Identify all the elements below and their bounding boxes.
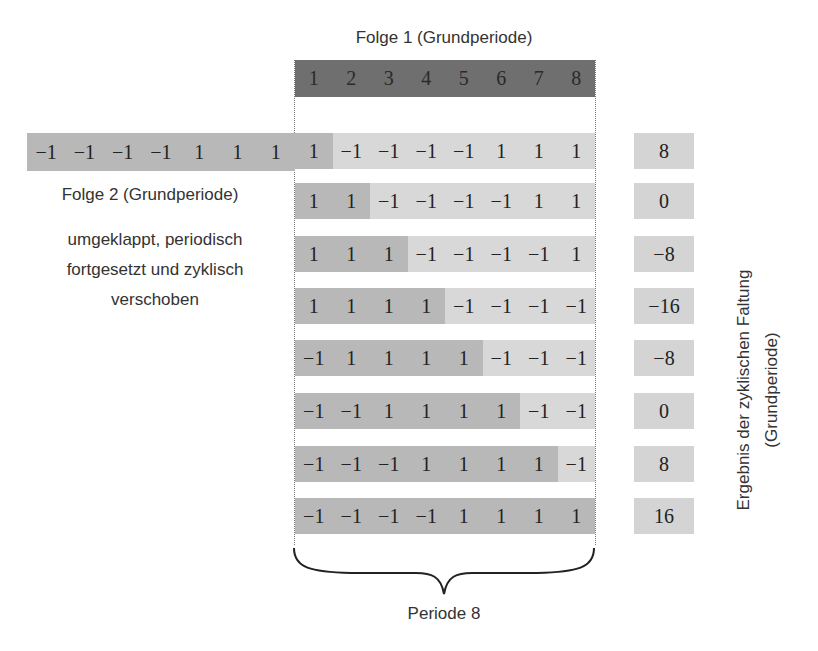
result-value: 0: [634, 393, 694, 429]
value-cell: −1: [295, 340, 333, 376]
value-cell: −1: [558, 393, 596, 429]
desc-line: umgeklappt, periodisch: [20, 225, 290, 255]
value-cell: −1: [370, 498, 408, 534]
periode-label: Periode 8: [293, 604, 595, 624]
result-value: 0: [634, 183, 694, 219]
value-cell: −1: [520, 393, 558, 429]
value-cell: 1: [370, 340, 408, 376]
value-cell: 1: [295, 288, 333, 324]
shifted-row: −11111−1−1−1: [295, 340, 595, 376]
folge1-index-row: 1 2 3 4 5 6 7 8: [295, 60, 595, 97]
curly-brace-icon: [291, 546, 597, 606]
value-cell: −1: [520, 340, 558, 376]
period-right-boundary: [595, 60, 596, 545]
result-value: −8: [634, 340, 694, 376]
value-cell: −1: [520, 288, 558, 324]
index-cell: 7: [520, 60, 558, 97]
desc-line: verschoben: [20, 285, 290, 315]
shifted-row: −1−1−11111−1: [295, 446, 595, 482]
value-cell: −1: [445, 133, 483, 169]
value-cell: −1: [483, 340, 521, 376]
ext-cell: 1: [180, 133, 218, 171]
shifted-row: 111−1−1−1−11: [295, 236, 595, 272]
value-cell: −1: [483, 288, 521, 324]
value-cell: 1: [520, 446, 558, 482]
value-cell: 1: [295, 236, 333, 272]
value-cell: −1: [445, 183, 483, 219]
value-cell: −1: [295, 498, 333, 534]
value-cell: −1: [408, 498, 446, 534]
value-cell: 1: [370, 393, 408, 429]
value-cell: −1: [333, 393, 371, 429]
value-cell: −1: [370, 446, 408, 482]
result-axis-label: Ergebnis der zyklischen Faltung (Grundpe…: [730, 190, 790, 590]
value-cell: −1: [370, 133, 408, 169]
folge1-title: Folge 1 (Grundperiode): [293, 28, 595, 48]
value-cell: −1: [333, 498, 371, 534]
value-cell: 1: [483, 133, 521, 169]
desc-line: fortgesetzt und zyklisch: [20, 255, 290, 285]
value-cell: 1: [558, 133, 596, 169]
shifted-row: −1−1−1−11111: [295, 498, 595, 534]
ext-cell: −1: [142, 133, 180, 171]
value-cell: 1: [295, 183, 333, 219]
value-cell: −1: [408, 183, 446, 219]
value-cell: 1: [483, 498, 521, 534]
ext-cell: 1: [218, 133, 256, 171]
result-value: 8: [634, 133, 694, 169]
value-cell: 1: [558, 498, 596, 534]
shifted-row: 11−1−1−1−111: [295, 183, 595, 219]
index-cell: 5: [445, 60, 483, 97]
value-cell: 1: [408, 446, 446, 482]
ext-cell: −1: [104, 133, 142, 171]
index-cell: 3: [370, 60, 408, 97]
value-cell: −1: [520, 236, 558, 272]
value-cell: 1: [558, 183, 596, 219]
shifted-row: −1−11111−1−1: [295, 393, 595, 429]
value-cell: −1: [445, 288, 483, 324]
value-cell: −1: [558, 288, 596, 324]
value-cell: 1: [295, 133, 333, 169]
ext-cell: −1: [65, 133, 103, 171]
value-cell: 1: [520, 498, 558, 534]
value-cell: −1: [558, 446, 596, 482]
value-cell: −1: [408, 133, 446, 169]
value-cell: −1: [370, 183, 408, 219]
folge2-label: Folge 2 (Grundperiode): [30, 185, 270, 205]
value-cell: 1: [408, 340, 446, 376]
value-cell: −1: [483, 183, 521, 219]
value-cell: 1: [445, 340, 483, 376]
value-cell: 1: [408, 393, 446, 429]
value-cell: −1: [483, 236, 521, 272]
value-cell: 1: [408, 288, 446, 324]
value-cell: 1: [333, 340, 371, 376]
shifted-row: 1111−1−1−1−1: [295, 288, 595, 324]
result-label-line: Ergebnis der zyklischen Faltung: [730, 190, 758, 590]
ext-cell: −1: [27, 133, 65, 171]
value-cell: 1: [333, 183, 371, 219]
result-value: −8: [634, 236, 694, 272]
result-value: 16: [634, 498, 694, 534]
folge2-description: umgeklappt, periodisch fortgesetzt und z…: [20, 225, 290, 315]
value-cell: −1: [408, 236, 446, 272]
value-cell: 1: [370, 236, 408, 272]
index-cell: 4: [408, 60, 446, 97]
value-cell: −1: [558, 340, 596, 376]
shifted-row: 1−1−1−1−1111: [295, 133, 595, 169]
index-cell: 6: [483, 60, 521, 97]
index-cell: 8: [558, 60, 596, 97]
value-cell: 1: [445, 446, 483, 482]
value-cell: 1: [483, 446, 521, 482]
value-cell: −1: [333, 133, 371, 169]
result-value: −16: [634, 288, 694, 324]
value-cell: 1: [483, 393, 521, 429]
value-cell: 1: [370, 288, 408, 324]
value-cell: −1: [295, 393, 333, 429]
value-cell: 1: [445, 393, 483, 429]
value-cell: 1: [558, 236, 596, 272]
value-cell: 1: [333, 236, 371, 272]
value-cell: 1: [333, 288, 371, 324]
value-cell: −1: [445, 236, 483, 272]
value-cell: 1: [520, 183, 558, 219]
value-cell: 1: [445, 498, 483, 534]
